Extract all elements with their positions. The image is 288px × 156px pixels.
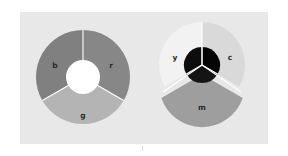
wedge-label-c: c [228,53,232,62]
wedge-label-y: y [173,53,178,62]
figure-tick-mark [142,146,143,151]
wedge-label-g: g [80,111,85,120]
axes-right-nested-pie-chart: y c m [148,18,262,138]
wedge-label-m: m [198,103,206,112]
left-donut-svg: b r g [26,18,140,138]
figure-screenshot: b r g y c m [0,0,288,156]
right-nested-pie-svg: y c m [148,18,262,138]
wedge-label-b: b [52,61,58,70]
wedge-label-r: r [109,61,113,70]
axes-left-donut-chart: b r g [26,18,140,138]
